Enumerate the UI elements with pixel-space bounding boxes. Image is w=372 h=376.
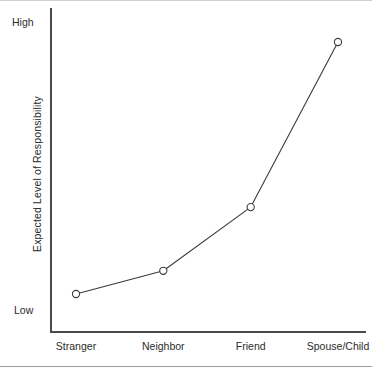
series-line-expected-level-of-responsibility xyxy=(76,42,338,294)
data-point-friend xyxy=(247,204,254,211)
x-tick-label-friend: Friend xyxy=(236,340,266,352)
x-tick-label-neighbor: Neighbor xyxy=(142,340,185,352)
plot-area xyxy=(0,0,372,376)
x-tick-label-spouse-child: Spouse/Child xyxy=(307,340,369,352)
data-point-stranger xyxy=(72,290,79,297)
chart-figure: High Low Expected Level of Responsibilit… xyxy=(0,0,372,376)
x-tick-label-stranger: Stranger xyxy=(56,340,96,352)
series-markers xyxy=(72,38,341,297)
data-point-spouse-child xyxy=(334,38,341,45)
data-point-neighbor xyxy=(160,267,167,274)
